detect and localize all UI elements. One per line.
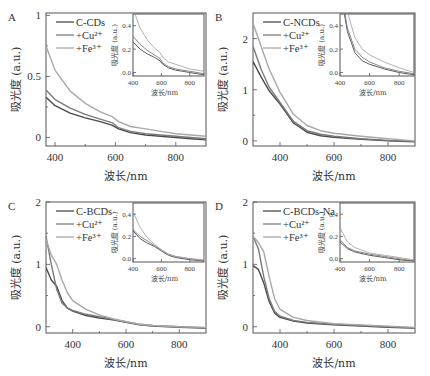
y-tick-label: 1	[36, 9, 42, 21]
legend-entry: +Fe³⁺	[76, 43, 102, 54]
x-tick-label: 400	[272, 338, 289, 350]
legend-entry: +Fe³⁺	[283, 232, 309, 243]
svg-text:800: 800	[185, 265, 196, 273]
y-tick-label: 0	[243, 135, 249, 147]
legend-entry: +Cu²⁺	[76, 219, 103, 230]
legend-entry: C-BCDs	[76, 206, 112, 217]
svg-text:0.2: 0.2	[122, 233, 131, 241]
y-axis-label: 吸光度 (a.u.)	[9, 235, 23, 301]
panel-label: C	[8, 200, 15, 212]
svg-text:0.0: 0.0	[122, 255, 131, 263]
legend-entry: +Fe³⁺	[283, 43, 309, 54]
svg-text:600: 600	[364, 265, 375, 273]
svg-text:吸光度 (a.u.): 吸光度 (a.u.)	[110, 24, 119, 66]
series-line	[46, 46, 206, 136]
legend-entry: +Cu²⁺	[283, 219, 310, 230]
panel-c: C012400600800波长/nm吸光度 (a.u.)C-BCDs+Cu²⁺+…	[8, 196, 206, 370]
y-axis-label: 吸光度 (a.u.)	[216, 235, 230, 301]
panel-label: B	[215, 11, 222, 23]
x-tick-label: 600	[118, 338, 135, 350]
legend-entry: +Fe³⁺	[76, 232, 102, 243]
svg-text:600: 600	[156, 265, 167, 273]
figure: A00.51400600800波长/nm吸光度 (a.u.)C-CDs+Cu²⁺…	[0, 0, 430, 376]
inset-plot: 0.00.20.4400600800波长/nm吸光度 (a.u.)	[110, 8, 204, 97]
x-tick-label: 400	[47, 151, 64, 163]
svg-text:波长/nm: 波长/nm	[359, 274, 387, 283]
svg-text:600: 600	[156, 79, 167, 87]
inset-plot: 0.00.20.4400600800波长/nm吸光度 (a.u.)	[110, 197, 204, 283]
x-tick-label: 800	[380, 338, 397, 350]
panel-d: D012400600800波长/nm吸光度 (a.u.)C-BCDs-Na+Cu…	[215, 196, 415, 370]
legend-entry: +Cu²⁺	[76, 30, 103, 41]
svg-text:400: 400	[128, 79, 139, 87]
inset-plot: 0.00.20.4400600800波长/nm吸光度 (a.u.)	[317, 203, 414, 283]
series-line	[253, 46, 415, 141]
x-tick-label: 400	[272, 151, 289, 163]
y-tick-label: 2	[243, 33, 249, 45]
panel-label: A	[8, 11, 16, 23]
svg-text:吸光度 (a.u.): 吸光度 (a.u.)	[317, 211, 326, 253]
y-tick-label: 0	[36, 321, 42, 333]
y-axis-label: 吸光度 (a.u.)	[216, 47, 230, 113]
y-tick-label: 0.5	[27, 70, 41, 82]
panel-a: A00.51400600800波长/nm吸光度 (a.u.)C-CDs+Cu²⁺…	[8, 8, 206, 183]
y-tick-label: 2	[36, 196, 42, 208]
panel-label: D	[215, 200, 223, 212]
x-axis-label: 波长/nm	[104, 357, 148, 370]
series-line	[46, 239, 206, 327]
legend-entry: +Cu²⁺	[283, 30, 310, 41]
svg-text:400: 400	[335, 265, 346, 273]
y-tick-label: 1	[36, 258, 42, 270]
x-tick-label: 400	[64, 338, 81, 350]
svg-text:0.0: 0.0	[122, 69, 131, 77]
legend-entry: C-CDs	[76, 17, 105, 28]
svg-text:400: 400	[335, 79, 346, 87]
svg-text:800: 800	[185, 79, 196, 87]
y-tick-label: 2	[243, 196, 249, 208]
plot-frame	[46, 202, 206, 333]
svg-text:波长/nm: 波长/nm	[151, 274, 179, 283]
x-axis-label: 波长/nm	[312, 170, 356, 183]
x-tick-label: 600	[107, 151, 124, 163]
svg-text:吸光度 (a.u.): 吸光度 (a.u.)	[317, 24, 326, 66]
series-line	[253, 236, 415, 328]
y-tick-label: 0	[36, 131, 42, 143]
panel-b: B012400600800波长/nm吸光度 (a.u.)C-NCDs+Cu²⁺+…	[215, 0, 415, 183]
series-line	[46, 236, 206, 328]
inset-plot: 0.00.20.4400600800波长/nm吸光度 (a.u.)	[317, 0, 414, 97]
series-line	[253, 266, 415, 328]
series-line	[46, 97, 206, 140]
x-tick-label: 600	[326, 151, 343, 163]
x-tick-label: 800	[168, 151, 185, 163]
svg-text:0.2: 0.2	[122, 46, 131, 54]
svg-text:600: 600	[364, 79, 375, 87]
svg-text:波长/nm: 波长/nm	[359, 88, 387, 97]
svg-text:0.4: 0.4	[122, 22, 131, 30]
svg-text:波长/nm: 波长/nm	[151, 88, 179, 97]
svg-text:800: 800	[394, 79, 405, 87]
y-tick-label: 0	[243, 321, 249, 333]
legend-entry: C-NCDs	[283, 17, 320, 28]
x-axis-label: 波长/nm	[312, 357, 356, 370]
legend-entry: C-BCDs-Na	[283, 206, 335, 217]
y-axis-label: 吸光度 (a.u.)	[9, 47, 23, 113]
svg-text:0.4: 0.4	[122, 211, 131, 219]
x-tick-label: 600	[326, 338, 343, 350]
svg-text:0.0: 0.0	[329, 69, 338, 77]
svg-text:0.2: 0.2	[329, 233, 338, 241]
x-tick-label: 800	[171, 338, 188, 350]
y-tick-label: 1	[243, 84, 249, 96]
svg-text:0.2: 0.2	[329, 46, 338, 54]
svg-text:吸光度 (a.u.): 吸光度 (a.u.)	[110, 211, 119, 253]
plot-frame	[46, 13, 206, 146]
x-tick-label: 800	[380, 151, 397, 163]
svg-text:0.0: 0.0	[329, 255, 338, 263]
svg-text:800: 800	[394, 265, 405, 273]
y-tick-label: 1	[243, 258, 249, 270]
x-axis-label: 波长/nm	[104, 170, 148, 183]
svg-text:0.4: 0.4	[329, 211, 338, 219]
svg-text:400: 400	[128, 265, 139, 273]
svg-text:0.4: 0.4	[329, 22, 338, 30]
